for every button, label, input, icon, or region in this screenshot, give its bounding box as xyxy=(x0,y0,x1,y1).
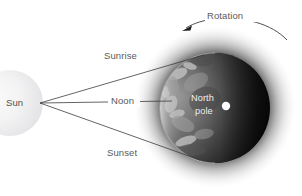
sunset-label: Sunset xyxy=(107,147,137,158)
noon-label: Noon xyxy=(111,95,134,106)
diagram-canvas: Sun xyxy=(0,0,302,196)
sun-group: Sun xyxy=(0,70,43,136)
rotation-arrowhead-icon xyxy=(182,26,192,32)
north-pole-label-line2: pole xyxy=(195,106,213,116)
rotation-label: Rotation xyxy=(207,10,243,21)
sunrise-label: Sunrise xyxy=(104,50,137,61)
north-pole-marker xyxy=(222,102,230,110)
north-pole-label-line1: North xyxy=(191,93,214,103)
sun-label: Sun xyxy=(6,97,23,108)
ray-labels-group: Sunrise Noon Sunset xyxy=(101,50,143,159)
earth-rotation-diagram: Sun xyxy=(0,0,302,196)
